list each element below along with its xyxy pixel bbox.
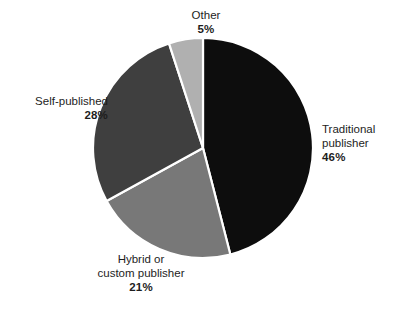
pie-label-hybrid-custom-publisher-value: 21%	[62, 280, 220, 294]
pie-label-hybrid-custom-publisher: Hybrid or custom publisher 21%	[62, 252, 220, 294]
pie-label-traditional-publisher-name-line1: Traditional	[322, 122, 400, 136]
pie-label-traditional-publisher-value: 46%	[322, 150, 400, 164]
pie-label-hybrid-custom-publisher-name-line2: custom publisher	[62, 266, 220, 280]
pie-chart: Other 5% Traditional publisher 46% Self-…	[0, 0, 401, 312]
pie-label-other: Other 5%	[160, 8, 252, 36]
pie-label-hybrid-custom-publisher-name-line1: Hybrid or	[62, 252, 220, 266]
pie-label-self-published-value: 28%	[4, 108, 108, 122]
pie-label-traditional-publisher-name-line2: publisher	[322, 136, 400, 150]
pie-slice-group	[93, 38, 313, 258]
pie-figure	[93, 38, 313, 258]
pie-svg	[93, 38, 313, 258]
pie-label-traditional-publisher: Traditional publisher 46%	[322, 122, 400, 164]
pie-label-self-published-name: Self-published	[4, 94, 108, 108]
pie-label-other-name: Other	[160, 8, 252, 22]
pie-label-self-published: Self-published 28%	[4, 94, 108, 122]
pie-label-other-value: 5%	[160, 22, 252, 36]
